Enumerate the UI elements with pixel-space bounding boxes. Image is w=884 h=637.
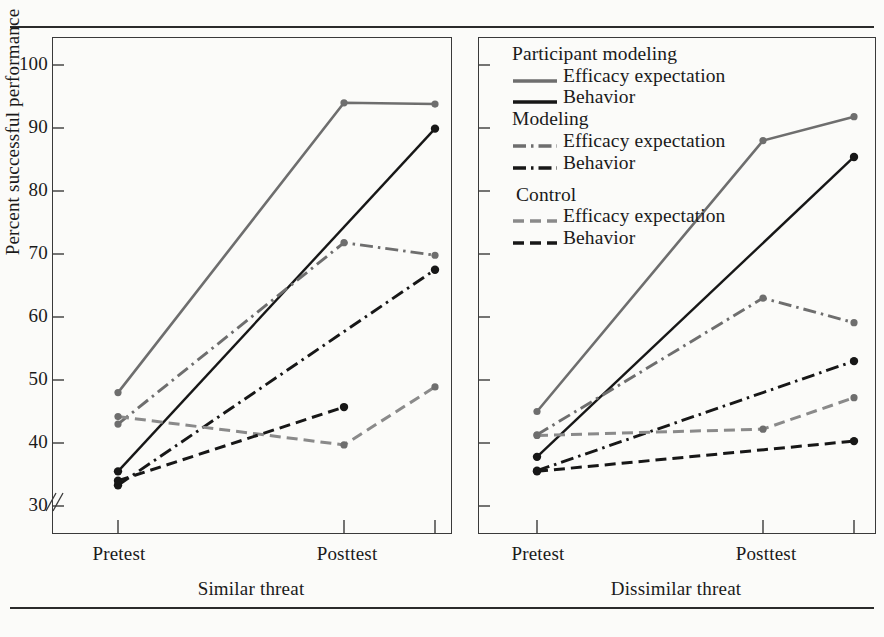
top-rule <box>10 26 874 28</box>
legend-line-swatch <box>512 232 558 246</box>
data-point-marker <box>114 421 121 428</box>
plot-area-similar-threat <box>53 38 451 533</box>
legend-line-swatch <box>512 157 558 171</box>
figure-page: Percent successful performance 304050607… <box>0 0 884 637</box>
panel-title: Dissimilar threat <box>611 578 742 600</box>
legend-entry[interactable]: Behavior <box>512 153 812 175</box>
data-point-marker <box>759 295 766 302</box>
series-line <box>118 270 435 485</box>
data-point-marker <box>114 477 122 485</box>
data-point-marker <box>759 426 766 433</box>
data-point-marker <box>850 394 857 401</box>
data-point-marker <box>340 239 347 246</box>
legend-entry[interactable]: Efficacy expectation <box>512 206 812 228</box>
data-point-marker <box>114 467 122 475</box>
legend-line-swatch <box>512 91 558 105</box>
data-point-marker <box>340 403 348 411</box>
data-point-marker <box>431 383 438 390</box>
y-tick-label: 40 <box>29 431 48 453</box>
data-point-marker <box>533 467 541 475</box>
series-line <box>537 441 854 471</box>
y-axis-tick-labels: 30405060708090100 <box>0 0 48 637</box>
data-point-marker <box>114 389 121 396</box>
legend-entry-label: Efficacy expectation <box>563 205 725 227</box>
bottom-rule <box>10 607 874 609</box>
legend-line-swatch <box>512 210 558 224</box>
panel-title: Similar threat <box>198 578 305 600</box>
legend-entry-label: Behavior <box>563 86 635 108</box>
legend-line-swatch <box>512 70 558 84</box>
x-tick-label: Pretest <box>92 543 145 565</box>
y-tick-label: 30 <box>29 494 48 516</box>
legend-entry-label: Efficacy expectation <box>563 65 725 87</box>
legend-entry-label: Behavior <box>563 152 635 174</box>
series-line <box>118 407 344 481</box>
legend-entry[interactable]: Efficacy expectation <box>512 131 812 153</box>
legend-line-swatch <box>512 135 558 149</box>
data-point-marker <box>431 252 438 259</box>
data-point-marker <box>850 153 858 161</box>
legend-group-title: Control <box>516 185 812 206</box>
data-point-marker <box>431 266 439 274</box>
y-tick-label: 80 <box>29 179 48 201</box>
legend-entry-label: Behavior <box>563 227 635 249</box>
data-point-marker <box>850 113 857 120</box>
data-point-marker <box>431 100 438 107</box>
y-tick-label: 60 <box>29 305 48 327</box>
data-point-marker <box>533 408 540 415</box>
data-point-marker <box>533 432 540 439</box>
panel-similar-threat <box>52 37 452 534</box>
data-point-marker <box>114 413 121 420</box>
series-line <box>537 398 854 436</box>
legend-group-title: Participant modeling <box>512 44 812 65</box>
y-tick-label: 100 <box>19 53 48 75</box>
data-point-marker <box>431 124 439 132</box>
data-point-marker <box>850 319 857 326</box>
x-tick-label: Posttest <box>317 543 378 565</box>
x-tick-label: Posttest <box>736 543 797 565</box>
legend-entry[interactable]: Behavior <box>512 87 812 109</box>
legend-entry-label: Efficacy expectation <box>563 130 725 152</box>
data-point-marker <box>340 99 347 106</box>
chart-legend: Participant modelingEfficacy expectation… <box>512 44 812 250</box>
y-tick-label: 90 <box>29 116 48 138</box>
data-point-marker <box>850 437 858 445</box>
legend-entry[interactable]: Behavior <box>512 228 812 250</box>
y-tick-label: 70 <box>29 242 48 264</box>
legend-entry[interactable]: Efficacy expectation <box>512 66 812 88</box>
data-point-marker <box>340 441 347 448</box>
data-point-marker <box>850 357 858 365</box>
data-point-marker <box>533 453 541 461</box>
series-line <box>118 387 435 445</box>
x-tick-label: Pretest <box>511 543 564 565</box>
legend-group-title: Modeling <box>512 109 812 130</box>
series-line <box>118 129 435 472</box>
y-tick-label: 50 <box>29 368 48 390</box>
series-line <box>537 361 854 471</box>
